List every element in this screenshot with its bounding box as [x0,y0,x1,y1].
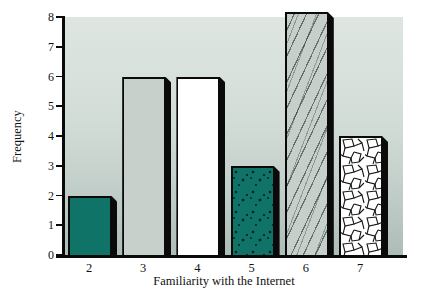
bar-x3 [122,77,171,256]
y-tick-label: 5 [20,99,54,113]
bar-x2 [68,196,117,256]
bar-x6 [285,12,334,255]
y-axis-tick [56,76,63,78]
y-axis-title: Frequency [10,77,25,197]
bar-face-solid-gray [124,79,164,256]
y-axis-tick [56,16,63,18]
y-tick-label: 4 [20,129,54,143]
bar-face-solid-white [178,79,218,256]
bar-chart: 012345678 234567 Frequency Familiarity w… [0,0,425,299]
y-axis-tick [56,105,63,107]
x-axis-line [56,255,407,258]
bar-x7 [339,136,388,255]
y-axis-tick [56,165,63,167]
y-tick-label: 7 [20,40,54,54]
x-tick-label: 7 [340,261,380,276]
bar-x4 [176,77,225,256]
y-tick-label: 8 [20,10,54,24]
x-axis-title: Familiarity with the Internet [104,274,344,289]
y-tick-label: 0 [20,248,54,262]
bar-face-crackle-white [341,138,381,255]
bar-x5 [231,166,280,255]
y-tick-label: 2 [20,189,54,203]
x-tick-label: 2 [69,261,109,276]
y-axis-tick [56,135,63,137]
y-tick-label: 3 [20,159,54,173]
y-tick-label: 1 [20,218,54,232]
bar-face-speckled-teal [233,168,273,255]
bar-face-diagonal-hatch [287,14,327,255]
y-axis-tick [56,224,63,226]
y-tick-label: 6 [20,70,54,84]
y-axis-tick [56,195,63,197]
bar-face-solid-teal [70,198,110,256]
y-axis-tick [56,46,63,48]
